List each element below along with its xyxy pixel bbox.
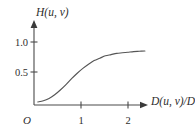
origin-label: O bbox=[23, 114, 31, 126]
transfer-function-curve bbox=[38, 51, 145, 102]
y-axis-arrow-icon bbox=[31, 20, 38, 28]
y-axis-label-args: (u, v) bbox=[44, 6, 68, 19]
x-axis-label-args: (u, v)/ bbox=[159, 95, 188, 108]
figure-container: H(u, v) D(u, v)/D0 1.0 0.5 1 2 O bbox=[0, 0, 195, 131]
y-tick-label-1: 1.0 bbox=[15, 37, 28, 48]
y-axis-label: H(u, v) bbox=[35, 6, 69, 19]
x-axis-label-denom: D bbox=[186, 95, 195, 107]
x-tick-label-1: 1 bbox=[78, 115, 83, 126]
y-tick-label-2: 0.5 bbox=[15, 67, 28, 78]
x-axis-arrow-icon bbox=[140, 102, 148, 109]
plot-svg: H(u, v) D(u, v)/D0 1.0 0.5 1 2 O bbox=[0, 0, 195, 131]
x-tick-label-2: 2 bbox=[125, 115, 130, 126]
x-axis-label: D(u, v)/D0 bbox=[150, 95, 195, 110]
